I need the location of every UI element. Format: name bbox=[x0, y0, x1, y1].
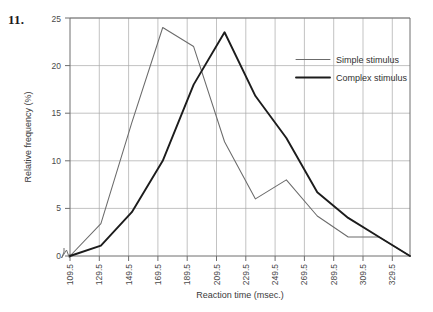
y-axis-title: Relative frequency (%) bbox=[23, 91, 33, 182]
x-tick-label-189-5: 189.5 bbox=[182, 264, 192, 286]
x-tick-label-149-5: 149.5 bbox=[124, 264, 134, 286]
y-tick-label-10: 10 bbox=[52, 156, 62, 166]
y-tick-label-0: 0 bbox=[56, 251, 61, 261]
x-tick-label-269-5: 269.5 bbox=[299, 264, 309, 286]
problem-number-label: 11. bbox=[8, 12, 24, 28]
y-axis-tick-labels: 0 5 10 15 20 25 bbox=[52, 14, 62, 262]
x-axis-tick-labels: 109.5 129.5 149.5 169.5 189.5 209.5 229.… bbox=[65, 264, 397, 286]
legend-label-simple-stimulus: Simple stimulus bbox=[336, 55, 400, 65]
x-tick-label-129-5: 129.5 bbox=[94, 264, 104, 286]
x-tick-label-229-5: 229.5 bbox=[241, 264, 251, 286]
legend-label-complex-stimulus: Complex stimulus bbox=[336, 73, 408, 83]
x-tick-label-209-5: 209.5 bbox=[212, 264, 222, 286]
x-tick-label-329-5: 329.5 bbox=[387, 264, 397, 286]
y-tick-label-15: 15 bbox=[52, 108, 62, 118]
y-tick-label-5: 5 bbox=[56, 203, 61, 213]
figure-container: 11. bbox=[0, 0, 433, 312]
x-tick-label-309-5: 309.5 bbox=[358, 264, 368, 286]
x-axis-ticks bbox=[70, 256, 392, 261]
y-axis-ticks bbox=[65, 18, 70, 256]
x-tick-label-289-5: 289.5 bbox=[329, 264, 339, 286]
y-tick-label-25: 25 bbox=[52, 14, 62, 24]
x-tick-label-169-5: 169.5 bbox=[153, 264, 163, 286]
x-axis-title: Reaction time (msec.) bbox=[196, 290, 284, 300]
line-chart: 0 5 10 15 20 25 Relative frequency (%) bbox=[0, 0, 433, 312]
x-tick-label-249-5: 249.5 bbox=[270, 264, 280, 286]
y-tick-label-20: 20 bbox=[52, 61, 62, 71]
x-tick-label-109-5: 109.5 bbox=[65, 264, 75, 286]
